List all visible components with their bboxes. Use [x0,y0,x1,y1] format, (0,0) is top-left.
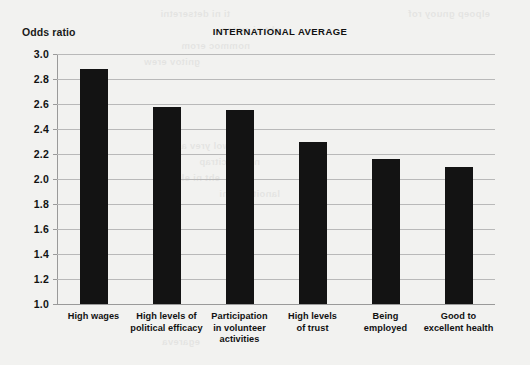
y-axis-tick-mark [53,229,57,230]
gridline: 1.8 [57,204,495,205]
x-axis-category-label-line: High wages [57,311,130,323]
x-axis-category-label-line: Good to [422,311,495,323]
x-axis-category-label-line: of trust [276,323,349,335]
y-axis-tick-label: 1.6 [34,223,49,235]
y-axis-tick-label: 1.2 [34,273,49,285]
x-axis-category-label: High levelsof trust [276,311,349,334]
y-axis-tick-label: 3.0 [34,48,49,60]
gridline: 2.8 [57,79,495,80]
bar [153,107,181,305]
y-axis-tick-label: 1.4 [34,248,49,260]
x-axis-category-label-line: activities [203,334,276,346]
y-axis-tick-mark [53,254,57,255]
y-axis-tick-label: 2.8 [34,73,49,85]
bar [372,159,400,304]
gridline: 1.2 [57,279,495,280]
x-axis-category-label: High wages [57,311,130,323]
x-axis-category-label-line: High levels of [130,311,203,323]
x-axis-category-label: Good toexcellent health [422,311,495,334]
y-axis-tick-mark [53,154,57,155]
y-axis-tick-mark [53,279,57,280]
x-axis-category-label-line: Participation [203,311,276,323]
bar [80,69,108,304]
y-axis-tick-mark [53,104,57,105]
x-axis-category-label-line: employed [349,323,422,335]
y-axis-title: Odds ratio [22,26,76,38]
y-axis-tick-mark [53,54,57,55]
y-axis-tick-label: 2.6 [34,98,49,110]
y-axis-tick-mark [53,204,57,205]
y-axis-tick-mark [53,129,57,130]
gridline: 2.4 [57,129,495,130]
gridline: 1.0 [57,304,495,305]
gridline: 2.2 [57,154,495,155]
gridline: 2.0 [57,179,495,180]
y-axis-tick-mark [53,179,57,180]
gridline: 2.6 [57,104,495,105]
x-axis-category-label-line: High levels [276,311,349,323]
gridline: 1.6 [57,229,495,230]
bar-chart: Odds ratio INTERNATIONAL AVERAGE 1.01.21… [0,0,530,365]
y-axis-tick-label: 2.4 [34,123,49,135]
x-axis-category-label-line: political efficacy [130,323,203,335]
y-axis-tick-label: 1.8 [34,198,49,210]
bar [226,110,254,304]
bar [445,167,473,305]
x-axis-category-label: High levels ofpolitical efficacy [130,311,203,334]
y-axis-tick-mark [53,79,57,80]
gridline: 3.0 [57,54,495,55]
bar [299,142,327,305]
chart-page: elpoep gnuoy rof ti ni detseretni eht ni… [0,0,530,365]
y-axis-tick-label: 2.0 [34,173,49,185]
x-axis-category-label-line: Being [349,311,422,323]
y-axis-tick-label: 1.0 [34,298,49,310]
y-axis-tick-mark [53,304,57,305]
y-axis-tick-label: 2.2 [34,148,49,160]
chart-title: INTERNATIONAL AVERAGE [175,26,385,37]
x-axis-category-label-line: excellent health [422,323,495,335]
x-axis-category-label-line: in volunteer [203,323,276,335]
x-axis-category-label: Participationin volunteeractivities [203,311,276,346]
x-axis-category-label: Beingemployed [349,311,422,334]
gridline: 1.4 [57,254,495,255]
plot-area: 1.01.21.41.61.82.02.22.42.62.83.0 [57,54,495,304]
